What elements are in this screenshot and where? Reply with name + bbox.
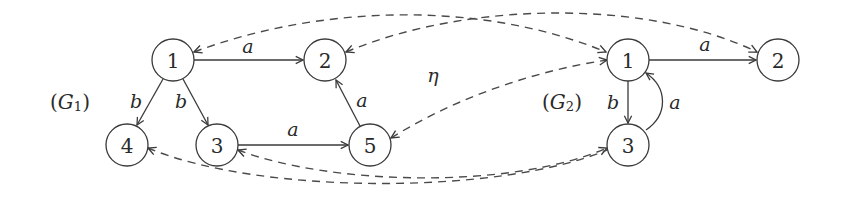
edge-g2-3-1 (646, 73, 663, 130)
svg-text:1: 1 (167, 49, 180, 73)
node-g1-4: 4 (106, 124, 148, 166)
edge-label-g2-1-2: a (699, 33, 710, 55)
graph-homomorphism-diagram: a b b a a a b a η 1 2 3 4 5 (0, 0, 847, 199)
graph-g2-edges (628, 60, 756, 130)
graph-g2-nodes: 1 2 3 (607, 39, 799, 166)
morphism-eta (148, 13, 757, 184)
edge-label-g1-1-3: b (175, 90, 187, 112)
node-g2-2: 2 (757, 39, 799, 81)
edge-label-g1-1-2: a (242, 35, 253, 57)
node-g2-1: 1 (607, 39, 649, 81)
svg-text:2: 2 (772, 49, 785, 73)
svg-text:5: 5 (364, 134, 377, 158)
mapping-g1-2-to-g2-2 (346, 13, 757, 52)
node-g1-1: 1 (152, 39, 194, 81)
svg-text:2: 2 (319, 49, 332, 73)
edge-label-g1-5-2: a (356, 89, 367, 111)
svg-text:4: 4 (121, 134, 134, 158)
svg-text:3: 3 (211, 134, 224, 158)
node-g1-2: 2 (304, 39, 346, 81)
morphism-label-eta: η (427, 64, 439, 86)
edge-label-g1-3-5: a (287, 118, 298, 140)
graph-label-g1: (G1) (50, 90, 90, 114)
node-g1-3: 3 (196, 124, 238, 166)
node-g1-5: 5 (349, 124, 391, 166)
mapping-g1-3-to-g2-3 (238, 148, 607, 178)
edge-label-g1-1-4: b (130, 90, 142, 112)
svg-text:1: 1 (622, 49, 635, 73)
svg-text:3: 3 (622, 134, 635, 158)
graph-label-g2: (G2) (542, 90, 582, 114)
node-g2-3: 3 (607, 124, 649, 166)
edge-label-g2-1-3: b (607, 91, 619, 113)
edge-label-g2-3-1: a (669, 91, 680, 113)
